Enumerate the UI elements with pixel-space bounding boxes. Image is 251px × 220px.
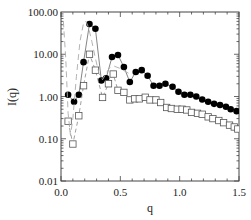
data-point-square	[210, 115, 216, 121]
data-point-square	[115, 87, 121, 93]
data-point-square	[199, 111, 205, 117]
data-point-square	[157, 99, 163, 105]
x-axis-label: q	[147, 201, 153, 215]
data-point-circle	[109, 54, 116, 61]
data-point-circle	[92, 26, 99, 33]
data-point-square	[188, 109, 194, 115]
data-point-circle	[76, 91, 83, 98]
data-point-square	[86, 51, 92, 57]
data-point-circle	[132, 69, 139, 76]
data-point-square	[65, 118, 71, 124]
data-point-circle	[233, 108, 240, 115]
data-point-circle	[156, 82, 163, 89]
chart: 0.00.51.01.5 0.010.101.0010.00100.00 q I…	[0, 0, 251, 220]
data-point-circle	[138, 67, 145, 74]
y-tick-label: 100.00	[28, 6, 59, 18]
x-tick-label: 1.5	[232, 186, 246, 198]
data-point-square	[220, 119, 226, 125]
x-tick-label: 1.0	[173, 186, 187, 198]
data-point-square	[99, 94, 105, 100]
y-tick-label: 10.00	[33, 48, 58, 60]
data-point-square	[80, 83, 86, 89]
data-point-circle	[211, 101, 218, 108]
data-point-square	[147, 97, 153, 103]
data-point-circle	[162, 80, 169, 87]
data-point-square	[76, 113, 82, 119]
data-point-circle	[169, 83, 176, 90]
x-tick-label: 0.0	[54, 186, 68, 198]
data-point-circle	[115, 52, 122, 59]
data-point-circle	[121, 64, 128, 71]
data-point-circle	[199, 96, 206, 103]
data-point-square	[235, 126, 241, 132]
data-point-circle	[127, 79, 134, 86]
data-point-circle	[187, 91, 194, 98]
data-point-circle	[205, 98, 212, 105]
x-tick-label: 0.5	[113, 186, 127, 198]
data-point-circle	[80, 59, 87, 66]
data-point-circle	[227, 106, 234, 113]
data-point-square	[70, 141, 76, 147]
data-point-circle	[65, 91, 72, 98]
y-tick-labels: 0.010.101.0010.00100.00	[28, 6, 59, 187]
y-tick-label: 1.00	[39, 91, 59, 103]
y-axis-label: I(q)	[5, 88, 19, 106]
data-point-circle	[193, 93, 200, 100]
data-point-circle	[181, 91, 188, 98]
data-point-square	[168, 105, 174, 111]
x-tick-labels: 0.00.51.01.5	[54, 186, 246, 198]
data-point-circle	[150, 82, 157, 89]
data-point-circle	[217, 102, 224, 109]
data-point-square	[110, 71, 116, 77]
data-point-circle	[144, 72, 151, 79]
y-tick-label: 0.10	[39, 133, 59, 145]
data-point-square	[136, 96, 142, 102]
series-layer	[63, 21, 241, 148]
y-tick-label: 0.01	[39, 175, 58, 187]
plot-area	[61, 12, 241, 181]
data-point-square	[105, 81, 111, 87]
series-open-squares	[65, 51, 241, 147]
data-point-square	[121, 89, 127, 95]
data-point-circle	[175, 88, 182, 95]
data-point-square	[92, 67, 98, 73]
